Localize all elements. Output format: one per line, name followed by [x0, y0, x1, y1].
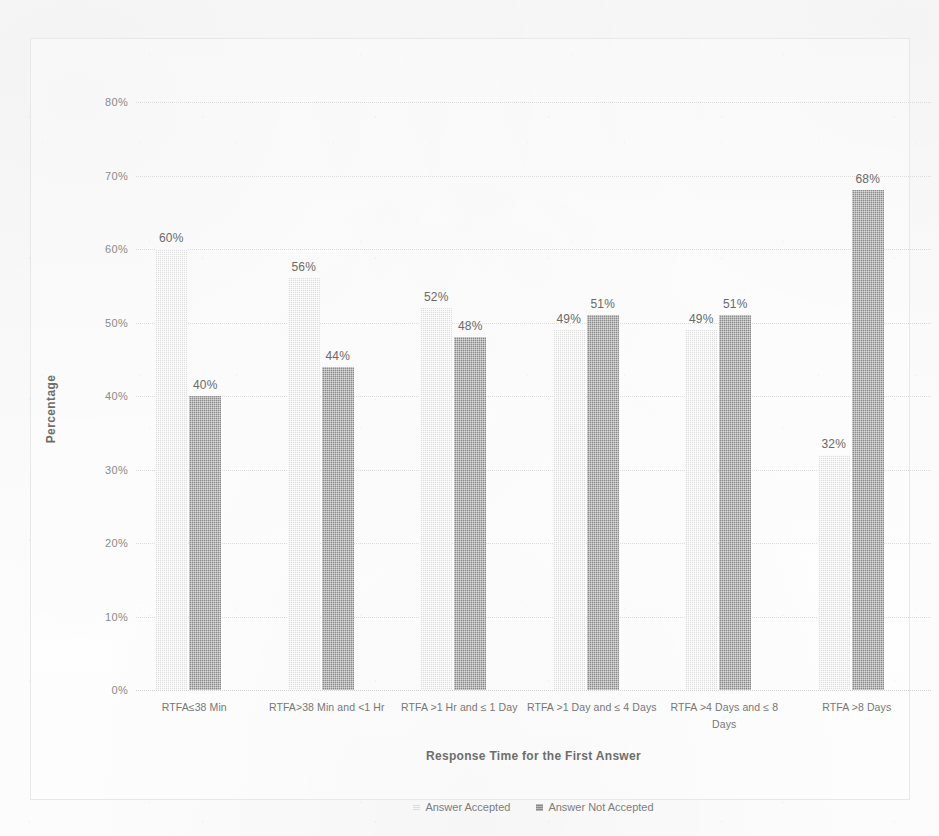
legend-label: Answer Not Accepted: [548, 801, 653, 813]
chart-legend: Answer AcceptedAnswer Not Accepted: [136, 801, 931, 813]
bar-value-label: 52%: [424, 290, 449, 304]
x-axis-title: Response Time for the First Answer: [136, 749, 931, 763]
legend-item[interactable]: Answer Accepted: [413, 801, 510, 813]
bar[interactable]: 49%: [685, 330, 717, 690]
bar-value-label: 56%: [291, 260, 316, 274]
legend-item[interactable]: Answer Not Accepted: [536, 801, 653, 813]
bar[interactable]: 52%: [420, 308, 452, 690]
y-axis-tick-labels: 80%70%60%50%40%30%20%10%0%: [136, 102, 931, 690]
bar[interactable]: 49%: [553, 330, 585, 690]
bar[interactable]: 60%: [155, 249, 187, 690]
y-axis-tick-label: 70%: [88, 170, 128, 182]
bar-fill: [322, 367, 354, 690]
bar[interactable]: 56%: [288, 278, 320, 690]
bar-value-label: 49%: [556, 312, 581, 326]
y-axis-tick-label: 10%: [88, 611, 128, 623]
y-axis-tick-label: 0%: [88, 684, 128, 696]
bar-fill: [454, 337, 486, 690]
bar[interactable]: 68%: [852, 190, 884, 690]
bar[interactable]: 51%: [587, 315, 619, 690]
bar-group: 52%48%: [420, 102, 486, 690]
bar[interactable]: 32%: [818, 455, 850, 690]
bar-fill: [719, 315, 751, 690]
bar[interactable]: 44%: [322, 367, 354, 690]
bar-fill: [685, 330, 717, 690]
x-axis-category-label: RTFA>38 Min and <1 Hr: [261, 699, 394, 716]
x-axis-category-label: RTFA >4 Days and ≤ 8 Days: [658, 699, 791, 733]
bar[interactable]: 40%: [189, 396, 221, 690]
bar-fill: [288, 278, 320, 690]
bar-value-label: 60%: [159, 231, 184, 245]
bar-group: 49%51%: [553, 102, 619, 690]
bar-fill: [189, 396, 221, 690]
legend-swatch-icon: [536, 804, 543, 811]
bar-value-label: 44%: [325, 349, 350, 363]
legend-label: Answer Accepted: [425, 801, 510, 813]
bar-group: 49%51%: [685, 102, 751, 690]
x-axis-category-label: RTFA >1 Hr and ≤ 1 Day: [393, 699, 526, 716]
chart-frame: Percentage 80%70%60%50%40%30%20%10%0% 60…: [30, 38, 910, 800]
bar-group: 60%40%: [155, 102, 221, 690]
bar-fill: [852, 190, 884, 690]
bar-fill: [818, 455, 850, 690]
x-axis-category-label: RTFA >1 Day and ≤ 4 Days: [526, 699, 659, 716]
y-axis-tick-label: 20%: [88, 537, 128, 549]
bar-fill: [420, 308, 452, 690]
x-axis-category-label: RTFA≤38 Min: [128, 699, 261, 716]
bar-value-label: 49%: [689, 312, 714, 326]
bar-value-label: 51%: [590, 297, 615, 311]
legend-swatch-icon: [413, 804, 420, 811]
bar-value-label: 51%: [723, 297, 748, 311]
y-axis-tick-label: 40%: [88, 390, 128, 402]
bar-fill: [587, 315, 619, 690]
bar-group: 32%68%: [818, 102, 884, 690]
bar-value-label: 68%: [855, 172, 880, 186]
x-axis-category-label: RTFA >8 Days: [791, 699, 924, 716]
bar[interactable]: 48%: [454, 337, 486, 690]
bar-value-label: 40%: [193, 378, 218, 392]
y-axis-title: Percentage: [44, 375, 58, 444]
plot-area: 80%70%60%50%40%30%20%10%0% 60%40%56%44%5…: [136, 102, 931, 690]
bar-value-label: 32%: [821, 437, 846, 451]
gridline: [136, 690, 931, 691]
bar-fill: [155, 249, 187, 690]
y-axis-tick-label: 60%: [88, 243, 128, 255]
bar-fill: [553, 330, 585, 690]
y-axis-tick-label: 80%: [88, 96, 128, 108]
bar[interactable]: 51%: [719, 315, 751, 690]
bar-group: 56%44%: [288, 102, 354, 690]
bar-value-label: 48%: [458, 319, 483, 333]
y-axis-tick-label: 30%: [88, 464, 128, 476]
y-axis-tick-label: 50%: [88, 317, 128, 329]
